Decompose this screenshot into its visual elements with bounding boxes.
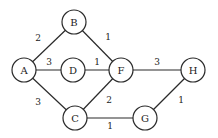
node-b: B xyxy=(62,10,86,34)
node-c: C xyxy=(63,106,87,130)
node-a: A xyxy=(12,58,36,82)
node-label: D xyxy=(69,65,77,76)
edge-weight-f-h: 3 xyxy=(154,57,160,67)
node-d: D xyxy=(61,58,85,82)
node-label: B xyxy=(70,17,77,28)
edge-weight-c-g: 1 xyxy=(107,121,113,131)
node-label: H xyxy=(189,65,198,76)
edge-weight-d-f: 1 xyxy=(94,57,100,67)
edge-weight-c-f: 2 xyxy=(106,95,112,105)
edge-weight-a-b: 2 xyxy=(35,33,41,43)
node-g: G xyxy=(133,106,157,130)
edge-weight-b-f: 1 xyxy=(105,32,111,42)
edge-weight-a-c: 3 xyxy=(35,97,41,107)
node-label: C xyxy=(71,113,79,124)
node-label: G xyxy=(141,113,149,124)
edge-weight-g-h: 1 xyxy=(178,95,184,105)
edge-weight-a-d: 3 xyxy=(46,57,52,67)
node-label: F xyxy=(118,65,125,76)
weighted-graph: 213133211 ABDFHCG xyxy=(0,0,218,138)
node-h: H xyxy=(181,58,205,82)
node-label: A xyxy=(19,65,28,76)
node-f: F xyxy=(109,58,133,82)
